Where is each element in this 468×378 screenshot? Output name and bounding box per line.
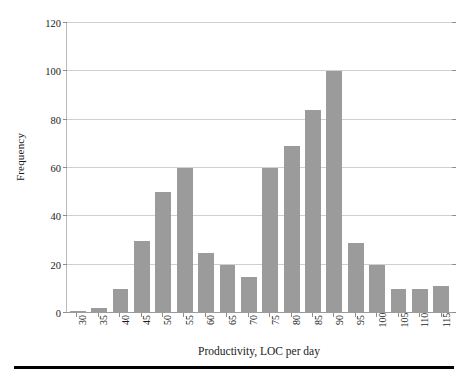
y-axis-title: Frequency [8, 0, 32, 313]
bar-slot-40 [110, 23, 131, 313]
y-tick-label-40: 40 [51, 211, 62, 222]
bar-110 [412, 289, 428, 313]
bar-slot-35 [88, 23, 109, 313]
histogram-figure: Frequency 020406080100120 30354045505560… [0, 0, 468, 378]
bar-65 [220, 265, 236, 313]
bar-slot-85 [302, 23, 323, 313]
y-axis-title-text: Frequency [14, 132, 26, 180]
bar-slot-50 [153, 23, 174, 313]
bar-40 [113, 289, 129, 313]
y-tick-label-20: 20 [51, 259, 62, 270]
bar-slot-30 [67, 23, 88, 313]
bar-slot-110 [409, 23, 430, 313]
bar-75 [262, 168, 278, 313]
bar-slot-70 [238, 23, 259, 313]
bar-slot-45 [131, 23, 152, 313]
bar-105 [391, 289, 407, 313]
x-tick-label-95: 95 [355, 315, 366, 325]
bar-slot-95 [345, 23, 366, 313]
x-tick-label-90: 90 [334, 315, 345, 325]
x-tick-label-35: 35 [98, 315, 109, 325]
bar-slot-60 [195, 23, 216, 313]
bar-50 [155, 192, 171, 313]
bar-slot-105 [388, 23, 409, 313]
y-tick-label-80: 80 [51, 114, 62, 125]
bar-60 [198, 253, 214, 313]
bar-slot-115 [431, 23, 452, 313]
bottom-rule [14, 366, 454, 369]
x-axis-title-text: Productivity, LOC per day [198, 345, 320, 357]
x-axis-title: Productivity, LOC per day [66, 345, 452, 357]
bar-slot-55 [174, 23, 195, 313]
x-tick-label-110: 110 [420, 313, 431, 328]
x-tick-label-85: 85 [313, 315, 324, 325]
x-tick-label-80: 80 [291, 315, 302, 325]
x-tick-label-105: 105 [398, 313, 409, 328]
y-tick-mark-right-20 [452, 264, 456, 265]
y-tick-mark-right-120 [452, 22, 456, 23]
x-tick-label-40: 40 [120, 315, 131, 325]
x-tick-label-45: 45 [141, 315, 152, 325]
bar-55 [177, 168, 193, 313]
bar-slot-80 [281, 23, 302, 313]
x-tick-label-100: 100 [377, 313, 388, 328]
y-tick-mark-right-100 [452, 70, 456, 71]
y-tick-mark-right-0 [452, 312, 456, 313]
bar-115 [433, 286, 449, 313]
bar-series [67, 23, 452, 313]
x-tick-label-50: 50 [162, 315, 173, 325]
bar-95 [348, 243, 364, 313]
y-tick-label-120: 120 [45, 18, 61, 29]
bar-slot-100 [366, 23, 387, 313]
bar-85 [305, 110, 321, 313]
x-tick-label-65: 65 [227, 315, 238, 325]
bar-45 [134, 241, 150, 314]
bar-slot-65 [217, 23, 238, 313]
x-tick-label-70: 70 [248, 315, 259, 325]
y-tick-label-60: 60 [51, 163, 62, 174]
x-tick-label-30: 30 [77, 315, 88, 325]
x-tick-label-115: 115 [441, 313, 452, 328]
x-tick-label-75: 75 [270, 315, 281, 325]
y-tick-label-100: 100 [45, 66, 61, 77]
bar-80 [284, 146, 300, 313]
bar-100 [369, 265, 385, 313]
bar-70 [241, 277, 257, 313]
x-tick-label-60: 60 [205, 315, 216, 325]
y-tick-mark-right-60 [452, 167, 456, 168]
bar-slot-90 [324, 23, 345, 313]
bar-90 [326, 71, 342, 313]
plot-area: 020406080100120 [66, 23, 452, 313]
bar-slot-75 [260, 23, 281, 313]
y-tick-mark-right-40 [452, 215, 456, 216]
y-tick-mark-right-80 [452, 119, 456, 120]
x-tick-label-55: 55 [184, 315, 195, 325]
y-tick-label-0: 0 [56, 308, 61, 319]
